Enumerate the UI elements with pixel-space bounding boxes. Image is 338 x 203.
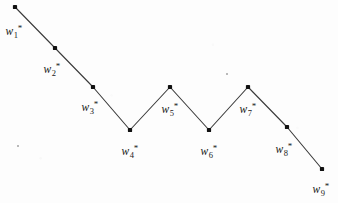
point-marker-9 <box>320 167 324 171</box>
label-superscript-1: * <box>18 23 23 33</box>
label-base-9: w <box>313 183 321 195</box>
label-base-5: w <box>162 103 170 115</box>
point-marker-6 <box>207 128 211 132</box>
label-superscript-7: * <box>252 101 257 111</box>
point-label-3: w3* <box>82 100 99 115</box>
point-label-4: w4* <box>122 144 139 159</box>
point-label-5: w5* <box>162 102 179 117</box>
point-label-7: w7* <box>240 102 257 117</box>
figure-container: w1*w2*w3*w4*w5*w6*w7*w8*w9* <box>0 0 338 203</box>
point-label-1: w1* <box>6 24 23 39</box>
point-label-9: w9* <box>313 182 330 197</box>
label-superscript-2: * <box>56 61 61 71</box>
point-marker-1 <box>13 5 17 9</box>
label-base-4: w <box>122 145 130 157</box>
point-marker-5 <box>168 85 172 89</box>
label-base-8: w <box>276 143 284 155</box>
point-marker-4 <box>128 128 132 132</box>
label-superscript-4: * <box>134 143 139 153</box>
label-superscript-8: * <box>288 141 293 151</box>
label-base-1: w <box>6 25 14 37</box>
point-label-2: w2* <box>44 62 61 77</box>
label-base-3: w <box>82 101 90 113</box>
label-base-2: w <box>44 63 52 75</box>
speck-0 <box>226 73 228 75</box>
label-base-6: w <box>201 145 209 157</box>
point-marker-3 <box>91 85 95 89</box>
speck-1 <box>17 145 19 147</box>
point-label-6: w6* <box>201 144 218 159</box>
point-marker-2 <box>53 46 57 50</box>
point-label-8: w8* <box>276 142 293 157</box>
label-superscript-5: * <box>174 101 179 111</box>
label-superscript-9: * <box>325 181 330 191</box>
point-marker-7 <box>246 85 250 89</box>
label-superscript-3: * <box>94 99 99 109</box>
label-superscript-6: * <box>213 143 218 153</box>
label-base-7: w <box>240 103 248 115</box>
point-marker-8 <box>285 125 289 129</box>
